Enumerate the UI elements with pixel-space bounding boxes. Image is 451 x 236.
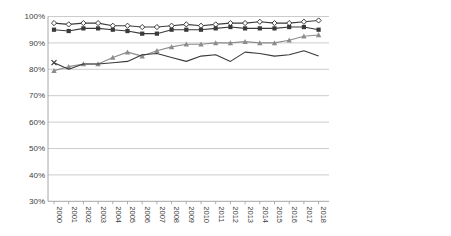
x-axis-tick-label: 2003	[99, 206, 108, 223]
data-point-marker	[66, 22, 71, 27]
x-axis-tick-label: 2008	[172, 206, 181, 223]
data-point-marker	[287, 25, 291, 29]
y-axis-tick-label: 90%	[29, 39, 45, 48]
data-point-marker	[301, 19, 306, 24]
data-point-marker	[125, 23, 130, 28]
x-axis-tick-label: 2017	[305, 206, 314, 223]
x-axis-tick-label: 2015	[275, 206, 284, 223]
data-point-marker	[184, 22, 189, 27]
data-point-marker	[154, 24, 159, 29]
y-axis-tick-label: 70%	[29, 91, 45, 100]
data-point-marker	[199, 28, 203, 32]
data-point-marker	[96, 21, 101, 26]
data-point-marker	[302, 25, 306, 29]
y-axis-tick-label: 30%	[29, 197, 45, 206]
y-axis-tick-label: 40%	[29, 171, 45, 180]
x-axis-tick-label: 2014	[261, 206, 270, 223]
data-point-marker	[228, 21, 233, 26]
x-axis-tick-label: 2011	[217, 206, 226, 222]
x-axis-tick-label: 2004	[114, 206, 123, 223]
x-axis-tick-label: 2002	[84, 206, 93, 223]
data-point-marker	[228, 25, 232, 29]
data-point-marker	[184, 28, 188, 32]
data-point-marker	[125, 49, 130, 54]
data-point-marker	[287, 21, 292, 26]
line-chart-figure: 100%90%80%70%60%50%40%30%200020012002200…	[0, 0, 451, 236]
data-point-marker	[52, 28, 56, 32]
data-point-marker	[243, 21, 248, 26]
data-point-marker	[67, 29, 71, 33]
data-point-marker	[81, 26, 85, 30]
chart-legend	[334, 0, 450, 236]
data-point-marker	[81, 21, 86, 26]
data-point-marker	[111, 28, 115, 32]
data-point-marker	[214, 26, 218, 30]
y-axis-tick-label: 50%	[29, 144, 45, 153]
data-point-marker	[258, 26, 262, 30]
x-axis-tick-label: 2005	[128, 206, 137, 223]
y-axis-tick-label: 100%	[25, 12, 45, 21]
series-line-2	[54, 35, 319, 71]
data-point-marker	[213, 22, 218, 27]
data-point-marker	[140, 32, 144, 36]
y-axis-tick-label: 60%	[29, 118, 45, 127]
x-axis-tick-label: 2001	[70, 206, 79, 223]
y-axis-tick-label: 80%	[29, 65, 45, 74]
data-point-marker	[110, 23, 115, 28]
x-axis-tick-label: 2006	[143, 206, 152, 223]
series-line-3	[54, 51, 319, 69]
data-point-marker	[125, 29, 129, 33]
data-point-marker	[243, 26, 247, 30]
data-point-marker	[198, 23, 203, 28]
data-point-marker	[316, 18, 321, 23]
data-point-marker	[272, 21, 277, 26]
data-point-marker	[140, 24, 145, 29]
data-point-marker	[257, 19, 262, 24]
data-point-marker	[51, 21, 56, 26]
x-axis-tick-label: 2009	[187, 206, 196, 223]
data-point-marker	[317, 28, 321, 32]
data-point-marker	[170, 28, 174, 32]
x-axis-tick-label: 2000	[55, 206, 64, 223]
x-axis-tick-label: 2016	[290, 206, 299, 223]
x-axis-tick-label: 2012	[231, 206, 240, 223]
x-axis-tick-label: 2010	[202, 206, 211, 223]
x-axis-tick-label: 2013	[246, 206, 255, 223]
x-axis-tick-label: 2018	[319, 206, 328, 223]
data-point-marker	[155, 32, 159, 36]
data-point-marker	[96, 26, 100, 30]
x-axis-tick-label: 2007	[158, 206, 167, 223]
data-point-marker	[169, 23, 174, 28]
data-point-marker	[272, 26, 276, 30]
